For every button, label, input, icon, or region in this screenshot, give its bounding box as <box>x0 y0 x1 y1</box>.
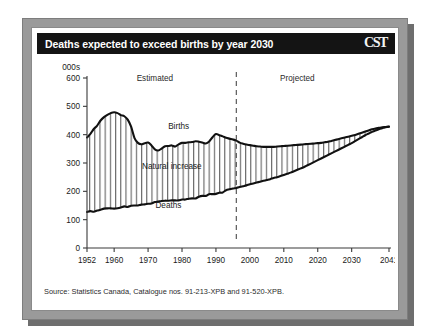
births-series-label: Births <box>168 122 189 131</box>
figure-panel: Deaths expected to exceed births by year… <box>31 27 399 311</box>
x-tick-label: 2020 <box>309 256 328 265</box>
cst-logo: CST <box>364 36 388 50</box>
title-bar: Deaths expected to exceed births by year… <box>37 33 395 54</box>
projected-region-label: Projected <box>280 74 315 83</box>
x-tick-label: 2000 <box>241 256 260 265</box>
population-chart: 0100200300400500600 19521960197019801990… <box>37 58 395 286</box>
y-axis-units-label: 000s <box>62 63 80 72</box>
source-note: Source: Statistics Canada, Catalogue nos… <box>44 287 284 296</box>
y-tick-label: 100 <box>66 216 80 225</box>
deaths-series-label: Deaths <box>155 201 181 210</box>
figure-page: Deaths expected to exceed births by year… <box>0 0 424 334</box>
x-tick-label: 1960 <box>105 256 124 265</box>
x-tick-label: 2010 <box>275 256 294 265</box>
y-tick-label: 200 <box>66 187 80 196</box>
x-tick-label: 2041 <box>380 256 395 265</box>
estimated-region-label: Estimated <box>137 74 174 83</box>
y-tick-label: 0 <box>75 244 80 253</box>
y-tick-label: 400 <box>66 131 80 140</box>
x-tick-labels: 1952196019701980199020002010202020302041 <box>78 256 395 265</box>
y-tick-label: 600 <box>66 74 80 83</box>
x-tick-label: 1980 <box>173 256 192 265</box>
x-tick-label: 1990 <box>207 256 226 265</box>
figure-frame: Deaths expected to exceed births by year… <box>22 18 408 320</box>
y-tick-label: 300 <box>66 159 80 168</box>
chart-area: 0100200300400500600 19521960197019801990… <box>37 58 395 286</box>
x-tick-label: 2030 <box>343 256 362 265</box>
y-tick-labels: 0100200300400500600 <box>66 74 80 253</box>
x-tick-label: 1970 <box>139 256 158 265</box>
natural-increase-label: Natural increase <box>142 162 202 171</box>
x-tick-label: 1952 <box>78 256 97 265</box>
y-tick-label: 500 <box>66 102 80 111</box>
page-title: Deaths expected to exceed births by year… <box>45 38 273 50</box>
